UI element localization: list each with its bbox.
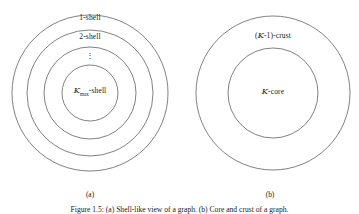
- figure-container: 1-shell 2-shell ⋮ Kmax-shell (K-1)-crust…: [0, 0, 359, 214]
- label-shell-2: 2-shell: [52, 33, 128, 41]
- label-kmax-shell: Kmax-shell: [50, 86, 130, 97]
- kmax-subscript: max: [80, 91, 89, 97]
- core-suffix: -core: [268, 87, 284, 96]
- subcaption-b: (b): [240, 190, 300, 199]
- figure-caption: Figure 1.5: (a) Shell-like view of a gra…: [8, 205, 351, 214]
- label-shell-1: 1-shell: [52, 14, 128, 22]
- label-vertical-ellipsis: ⋮: [52, 52, 128, 60]
- kmax-suffix: -shell: [89, 86, 106, 95]
- label-k-core: K-core: [233, 87, 313, 96]
- subcaption-a: (a): [60, 190, 120, 199]
- crust-suffix: -1)-crust: [264, 31, 291, 40]
- label-k-minus-1-crust: (K-1)-crust: [225, 31, 321, 40]
